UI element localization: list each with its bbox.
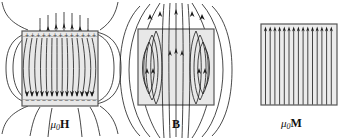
caption-mu0m-vector: M — [291, 116, 302, 130]
caption-mu0h: μ0H — [0, 118, 120, 132]
svg-text:−: − — [36, 97, 40, 104]
svg-text:+: + — [53, 32, 57, 39]
svg-text:−: − — [31, 97, 35, 104]
svg-text:−: − — [92, 97, 96, 104]
svg-text:+: + — [81, 32, 85, 39]
caption-mu0m: μ0M — [232, 117, 351, 131]
svg-text:+: + — [42, 32, 46, 39]
caption-b: B — [116, 118, 236, 132]
svg-text:+: + — [87, 32, 91, 39]
svg-text:−: − — [81, 97, 85, 104]
svg-text:+: + — [25, 32, 29, 39]
svg-text:+: + — [31, 32, 35, 39]
field-figure: + + + + + + + + + + + + + − − − − − − − … — [0, 0, 351, 140]
svg-text:−: − — [75, 97, 79, 104]
svg-text:+: + — [92, 32, 96, 39]
mu0m-magnet-body — [261, 24, 337, 105]
svg-text:+: + — [70, 32, 74, 39]
caption-mu0h-vector: H — [60, 117, 69, 131]
mu0h-positive-charges: + + + + + + + + + + + + + — [22, 32, 98, 39]
caption-b-vector: B — [172, 117, 180, 131]
svg-text:−: − — [64, 97, 68, 104]
svg-text:+: + — [47, 32, 51, 39]
svg-text:−: − — [70, 97, 74, 104]
svg-text:−: − — [47, 97, 51, 104]
mu0h-negative-charges: − − − − − − − − − − − − − — [22, 97, 98, 104]
svg-text:+: + — [75, 32, 79, 39]
svg-text:−: − — [59, 97, 63, 104]
svg-text:−: − — [87, 97, 91, 104]
svg-text:−: − — [42, 97, 46, 104]
svg-text:−: − — [53, 97, 57, 104]
svg-text:+: + — [36, 32, 40, 39]
svg-text:+: + — [59, 32, 63, 39]
svg-text:+: + — [64, 32, 68, 39]
svg-text:−: − — [25, 97, 29, 104]
